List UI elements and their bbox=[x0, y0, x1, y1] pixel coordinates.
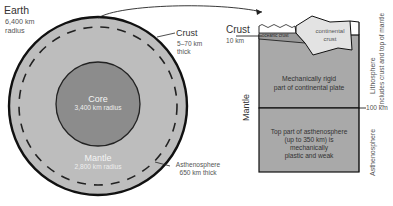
crust-label: Crust bbox=[176, 28, 198, 38]
mantle-label: Mantle bbox=[68, 153, 128, 163]
core-label: Core bbox=[68, 94, 128, 104]
crust-thickness: 5–70 km bbox=[177, 40, 202, 48]
mantle-radius: 2,800 km radius bbox=[58, 163, 138, 171]
asthenosphere-label: Asthenosphere bbox=[168, 161, 228, 169]
earth-title: Earth bbox=[4, 4, 29, 16]
core-radius: 3,400 km radius bbox=[58, 104, 138, 112]
ocean-surface bbox=[259, 25, 295, 28]
astheno-text-line4: plastic and weak bbox=[259, 152, 359, 160]
detail-crust-label: Crust bbox=[226, 24, 250, 36]
astheno-text-line2: (up to 350 km) is bbox=[259, 136, 359, 144]
asthenosphere-thickness: 650 km thick bbox=[168, 169, 228, 177]
oceanic-crust-label: oceanic crust bbox=[262, 33, 289, 38]
lithosphere-label: Lithosphere bbox=[369, 57, 376, 94]
continental-crust-line1: continental bbox=[310, 28, 350, 35]
continental-crust-line2: crust bbox=[310, 36, 350, 43]
arrow-head bbox=[256, 9, 262, 15]
crust-thickness-unit: thick bbox=[177, 48, 191, 56]
lithosphere-note: includes crust and top of mantle bbox=[378, 13, 385, 106]
rigid-text-line1: Mechanically rigid bbox=[259, 75, 359, 83]
vertical-asthenosphere-label: Asthenosphere bbox=[369, 129, 376, 176]
crust-depth: 10 km bbox=[226, 37, 244, 45]
astheno-text-line3: mechanically bbox=[259, 144, 359, 152]
rigid-text-line2: part of continental plate bbox=[259, 84, 359, 92]
earth-radius-unit: radius bbox=[5, 27, 25, 35]
detail-mantle-label: Mantle bbox=[241, 94, 251, 121]
zoom-connector-arrow bbox=[98, 6, 262, 18]
astheno-text-line1: Top part of asthenosphere bbox=[259, 128, 359, 136]
